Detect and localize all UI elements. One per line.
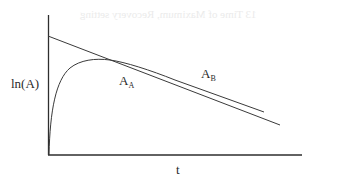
diagram-canvas — [0, 0, 358, 182]
ln-a-vs-t-diagram: 13 Time of Maximum, Recovery setting ln(… — [0, 0, 358, 182]
curve-label-a-sub: A — [128, 81, 134, 90]
y-axis-label: ln(A) — [11, 77, 39, 90]
curve-label-b-main: A — [201, 66, 210, 81]
curve-label-a-main: A — [119, 73, 128, 88]
absorption-curve-B — [49, 59, 264, 155]
curve-label-b: AB — [201, 67, 216, 83]
x-axis-label: t — [176, 163, 180, 176]
terminal-line-A — [48, 36, 280, 125]
curve-label-b-sub: B — [210, 74, 215, 83]
curve-label-a: AA — [119, 74, 134, 90]
